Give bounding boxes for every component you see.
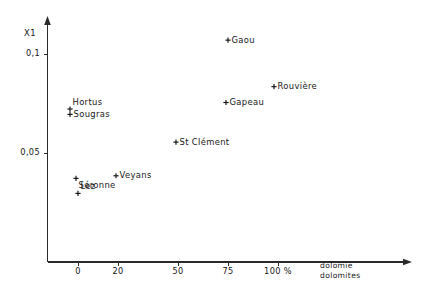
data-point-marker — [113, 173, 118, 178]
data-point-marker — [271, 84, 276, 89]
x-axis-caption: dolomie dolomites — [320, 261, 361, 280]
data-point-label: Rouvière — [278, 82, 318, 90]
x-axis-arrowhead — [403, 259, 412, 265]
y-tick-marks — [44, 54, 48, 153]
scatter-chart: X1 dolomie dolomites 0,10,05 0205075100 … — [0, 0, 430, 291]
data-point-label: Lez — [81, 182, 96, 190]
data-point-marker — [173, 140, 178, 145]
x-axis-caption-line-1: dolomie — [320, 261, 361, 271]
data-point-marker — [67, 112, 72, 117]
data-point-marker — [225, 38, 230, 43]
data-point-label: Hortus — [73, 98, 103, 106]
data-point-marker — [67, 106, 72, 111]
y-axis-arrowhead — [44, 16, 51, 25]
y-tick-label: 0,1 — [0, 49, 40, 57]
y-tick-label: 0,05 — [0, 148, 40, 156]
x-axis-caption-line-2: dolomites — [320, 271, 361, 281]
data-point-label: St Clément — [180, 138, 230, 146]
data-point-label: Gapeau — [230, 98, 265, 106]
y-axis-title: X1 — [24, 29, 36, 37]
data-point-label: Gaou — [232, 36, 255, 44]
data-point-label: Veyans — [120, 171, 152, 179]
x-tick-label: 20 — [88, 267, 148, 275]
data-point-marker — [75, 191, 80, 196]
data-point-marker — [223, 100, 228, 105]
x-tick-label: 100 % — [248, 267, 308, 275]
data-point-label: Sougras — [74, 110, 110, 118]
